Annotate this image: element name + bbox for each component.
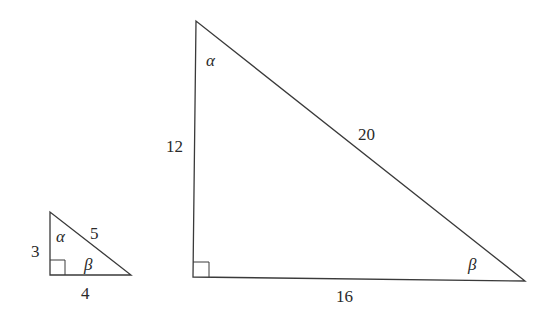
small-hypotenuse-label: 5: [90, 224, 99, 243]
large-side-vertical-label: 12: [166, 137, 183, 156]
small-right-angle-marker: [50, 260, 65, 275]
large-right-angle-marker: [193, 262, 209, 277]
large-triangle-outline: [193, 21, 525, 281]
small-angle-beta-label: β: [83, 255, 93, 274]
large-angle-alpha-label: α: [206, 51, 216, 70]
small-side-vertical-label: 3: [31, 242, 40, 261]
small-side-horizontal-label: 4: [81, 284, 90, 303]
small-triangle: 3 α 5 β 4: [31, 212, 131, 303]
large-hypotenuse-label: 20: [358, 125, 375, 144]
large-angle-beta-label: β: [467, 255, 477, 274]
similar-triangles-diagram: 3 α 5 β 4 α 12 20 β 16: [0, 0, 548, 314]
large-triangle: α 12 20 β 16: [166, 21, 525, 306]
small-angle-alpha-label: α: [56, 227, 66, 246]
large-side-horizontal-label: 16: [336, 287, 353, 306]
